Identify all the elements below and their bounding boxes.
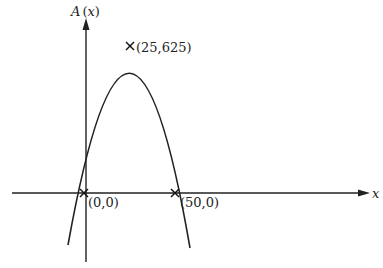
- root-label: (50,0): [180, 195, 219, 210]
- vertex-label: (25,625): [136, 40, 192, 55]
- y-axis-label: A(x): [70, 4, 100, 19]
- x-axis-label: x: [372, 186, 380, 201]
- graph-canvas: A(x) x (25,625) (0,0) (50,0): [0, 0, 383, 268]
- x-axis-arrow-icon: [358, 190, 370, 197]
- vertex-marker-icon: [126, 42, 134, 50]
- y-axis-arrow-icon: [83, 18, 90, 30]
- origin-label: (0,0): [88, 195, 119, 210]
